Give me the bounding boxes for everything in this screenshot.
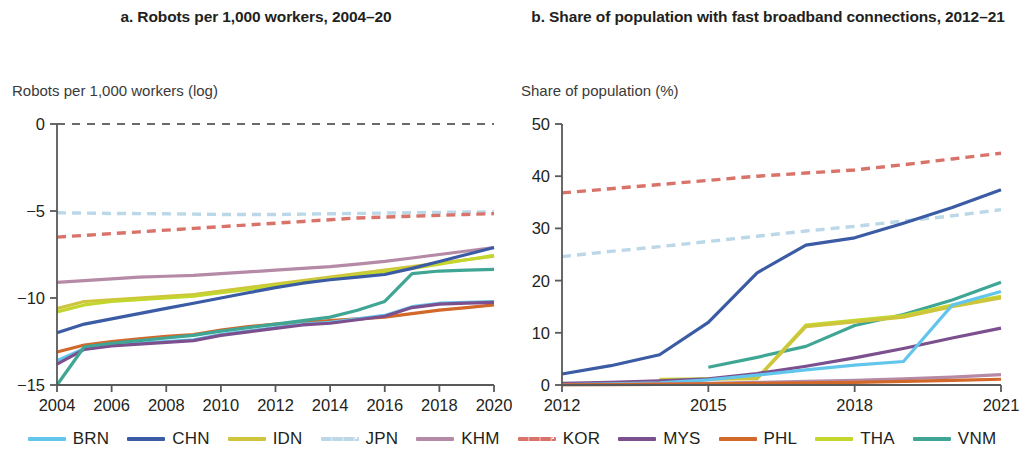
legend-swatch-icon: [618, 437, 656, 441]
legend-label: CHN: [172, 429, 209, 449]
legend-swatch-icon: [913, 437, 951, 441]
x-axis-tick-label: 2018: [421, 396, 458, 414]
figure-container: a. Robots per 1,000 workers, 2004–20 Rob…: [0, 0, 1024, 457]
legend-item-brn[interactable]: BRN: [28, 429, 110, 449]
panel-a-plot: 0−5−10−152004200620082010201220142016201…: [0, 0, 512, 420]
y-axis-tick-label: −10: [17, 289, 45, 307]
legend-item-tha[interactable]: THA: [815, 429, 895, 449]
legend-item-kor[interactable]: KOR: [518, 429, 600, 449]
x-axis-tick-label: 2004: [39, 396, 76, 414]
legend-label: PHL: [764, 429, 798, 449]
x-axis-tick-label: 2015: [690, 396, 727, 414]
series-line-kor: [57, 214, 494, 237]
legend-label: IDN: [273, 429, 303, 449]
series-line-jpn: [562, 210, 1001, 257]
x-axis-tick-label: 2012: [257, 396, 294, 414]
legend: BRNCHNIDNJPNKHMKORMYSPHLTHAVNM: [0, 420, 1024, 457]
legend-swatch-icon: [518, 437, 556, 441]
legend-swatch-icon: [416, 437, 454, 441]
legend-label: JPN: [366, 429, 399, 449]
y-axis-tick-label: 0: [541, 376, 550, 394]
x-axis-tick-label: 2020: [476, 396, 512, 414]
legend-swatch-icon: [28, 437, 66, 441]
x-axis-tick-label: 2018: [836, 396, 873, 414]
legend-item-idn[interactable]: IDN: [228, 429, 303, 449]
legend-item-jpn[interactable]: JPN: [321, 429, 399, 449]
legend-swatch-icon: [321, 437, 359, 441]
y-axis-tick-label: 40: [532, 167, 550, 185]
panel-a-svg: 0−5−10−152004200620082010201220142016201…: [0, 0, 512, 420]
y-axis-tick-label: 50: [532, 115, 550, 133]
legend-swatch-icon: [127, 437, 165, 441]
series-line-chn: [57, 248, 494, 333]
panel-b-svg: 010203040502012201520182021: [512, 0, 1024, 420]
legend-item-mys[interactable]: MYS: [618, 429, 700, 449]
x-axis-tick-label: 2016: [366, 396, 403, 414]
y-axis-tick-label: 20: [532, 272, 550, 290]
legend-item-khm[interactable]: KHM: [416, 429, 499, 449]
x-axis-tick-label: 2008: [148, 396, 185, 414]
series-line-vnm: [708, 282, 1001, 367]
series-line-mys: [562, 328, 1001, 383]
x-axis-tick-label: 2021: [983, 396, 1020, 414]
legend-item-vnm[interactable]: VNM: [913, 429, 996, 449]
y-axis-tick-label: 0: [36, 115, 45, 133]
y-axis-tick-label: −5: [26, 202, 45, 220]
series-line-kor: [562, 153, 1001, 193]
legend-label: KHM: [461, 429, 499, 449]
y-axis-tick-label: 10: [532, 324, 550, 342]
legend-item-chn[interactable]: CHN: [127, 429, 209, 449]
x-axis-tick-label: 2006: [93, 396, 130, 414]
legend-label: BRN: [73, 429, 110, 449]
panel-a: a. Robots per 1,000 workers, 2004–20 Rob…: [0, 0, 512, 420]
legend-label: VNM: [958, 429, 996, 449]
legend-label: KOR: [563, 429, 600, 449]
legend-label: THA: [860, 429, 895, 449]
y-axis-tick-label: −15: [17, 376, 45, 394]
x-axis-tick-label: 2012: [544, 396, 581, 414]
series-line-jpn: [57, 212, 494, 215]
legend-swatch-icon: [228, 437, 266, 441]
y-axis-tick-label: 30: [532, 219, 550, 237]
legend-swatch-icon: [719, 437, 757, 441]
panel-b-plot: 010203040502012201520182021: [512, 0, 1024, 420]
legend-item-phl[interactable]: PHL: [719, 429, 798, 449]
panel-b: b. Share of population with fast broadba…: [512, 0, 1024, 420]
legend-swatch-icon: [815, 437, 853, 441]
legend-label: MYS: [663, 429, 700, 449]
x-axis-tick-label: 2010: [203, 396, 240, 414]
x-axis-tick-label: 2014: [312, 396, 349, 414]
